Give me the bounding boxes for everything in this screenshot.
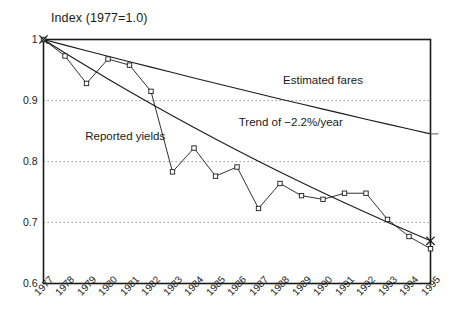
data-point-marker (149, 89, 153, 93)
y-tick-label-1: 1 (8, 33, 38, 45)
chart-figure: Index (1977=1.0) 10.90.80.70.6 197719781… (0, 0, 471, 326)
annotation-label-1: Trend of −2.2%/year (239, 116, 343, 128)
data-point-marker (213, 174, 217, 178)
data-point-marker (235, 165, 239, 169)
data-point-marker (321, 197, 325, 201)
data-point-marker (106, 57, 110, 61)
data-point-marker (428, 247, 432, 251)
data-point-marker (63, 54, 67, 58)
data-point-marker (278, 181, 282, 185)
annotation-label-2: Reported yields (85, 130, 165, 142)
data-point-marker (299, 193, 303, 197)
data-point-marker (407, 234, 411, 238)
y-tick-label-0.8: 0.8 (8, 155, 38, 167)
series-line-0 (44, 40, 431, 249)
data-point-marker (385, 217, 389, 221)
data-point-marker (192, 146, 196, 150)
data-point-marker (84, 81, 88, 85)
annotation-label-0: Estimated fares (283, 74, 363, 86)
y-tick-label-0.7: 0.7 (8, 216, 38, 228)
y-tick-label-0.6: 0.6 (8, 277, 38, 289)
series-line-1 (44, 40, 431, 134)
y-tick-label-0.9: 0.9 (8, 94, 38, 106)
data-point-marker (364, 191, 368, 195)
data-point-marker (342, 191, 346, 195)
chart-title: Index (1977=1.0) (51, 11, 147, 25)
data-point-marker (170, 170, 174, 174)
data-point-marker (256, 206, 260, 210)
data-point-marker (127, 63, 131, 67)
